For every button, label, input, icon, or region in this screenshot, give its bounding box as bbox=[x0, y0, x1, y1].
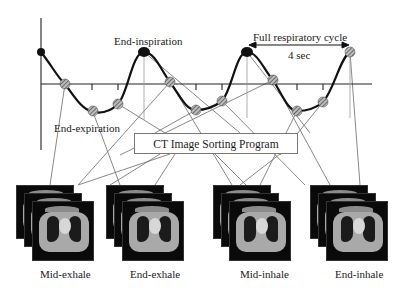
phase-label-mid-inhale: Mid-inhale bbox=[240, 268, 289, 280]
respiratory-curve bbox=[41, 52, 350, 113]
end-inspiration-label: End-inspiration bbox=[114, 35, 182, 47]
phase-label-end-inhale: End-inhale bbox=[335, 268, 383, 280]
full-cycle-label: Full respiratory cycle bbox=[253, 31, 347, 43]
phase-label-end-exhale: End-exhale bbox=[130, 268, 180, 280]
peak-markers bbox=[37, 47, 253, 57]
ct-image-sorting-program-box: CT Image Sorting Program bbox=[134, 133, 298, 154]
cycle-duration-label: 4 sec bbox=[288, 49, 310, 61]
phase-label-mid-exhale: Mid-exhale bbox=[40, 268, 91, 280]
end-expiration-label: End-expiration bbox=[54, 122, 120, 134]
ct-stack-end-exhale bbox=[106, 185, 184, 261]
ct-stack-mid-inhale bbox=[213, 185, 291, 261]
connector-lines bbox=[50, 52, 360, 185]
ct-stack-mid-exhale bbox=[16, 185, 94, 261]
program-box-label: CT Image Sorting Program bbox=[153, 138, 278, 150]
ct-stack-end-inhale bbox=[310, 185, 388, 261]
